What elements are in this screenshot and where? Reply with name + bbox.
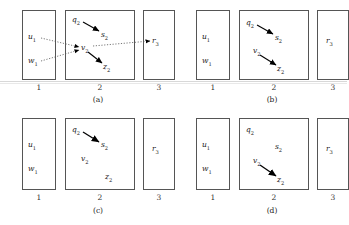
panel-d-caption: (d) xyxy=(252,206,292,215)
panel-d-arrow-v2-z2 xyxy=(260,165,276,176)
panel-d-column-number-3: 3 xyxy=(323,193,343,202)
panel-d-column-number-1: 1 xyxy=(203,193,223,202)
panel-d-column-number-2: 2 xyxy=(264,193,284,202)
